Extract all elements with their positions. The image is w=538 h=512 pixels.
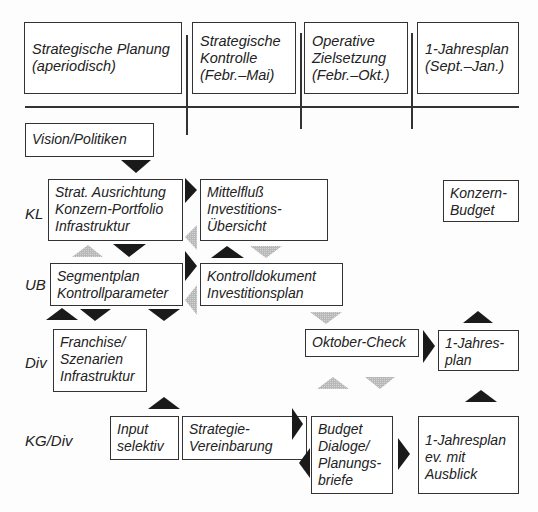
arrow-right-icon bbox=[423, 330, 435, 363]
box-text: Oktober-Check bbox=[312, 334, 406, 350]
arrow-up-icon bbox=[463, 311, 493, 323]
arrow-up-icon bbox=[46, 308, 78, 320]
row-label-div: Div bbox=[25, 354, 47, 371]
arrow-right-icon bbox=[398, 438, 410, 470]
box-vision-politiken: Vision/Politiken bbox=[25, 123, 154, 157]
header-label: 1-Jahresplan (Sept.–Jan.) bbox=[425, 41, 509, 75]
arrow-left-icon bbox=[185, 285, 197, 315]
box-strategie-vereinbarung: Strategie- Vereinbarung bbox=[182, 416, 307, 460]
header-label: Operative Zielsetzung (Febr.–Okt.) bbox=[312, 33, 390, 84]
arrow-down-icon bbox=[121, 160, 151, 173]
box-kontrolldokument: Kontrolldokument Investitionsplan bbox=[200, 263, 343, 306]
box-franchise: Franchise/ Szenarien Infrastruktur bbox=[53, 329, 147, 392]
header-strategische-planung: Strategische Planung (aperiodisch) bbox=[24, 22, 182, 94]
header-strategische-kontrolle: Strategische Kontrolle (Febr.–Mai) bbox=[192, 22, 296, 94]
box-input-selektiv: Input selektiv bbox=[110, 416, 179, 460]
box-oktober-check: Oktober-Check bbox=[305, 329, 419, 357]
box-text: Strat. Ausrichtung Konzern-Portfolio Inf… bbox=[55, 184, 166, 234]
arrow-right-icon bbox=[185, 251, 197, 281]
box-text: Segmentplan Kontrollparameter bbox=[57, 268, 168, 301]
arrow-up-icon bbox=[148, 397, 180, 409]
box-jahresplan-ausblick: 1-Jahresplan ev. mit Ausblick bbox=[418, 416, 519, 494]
box-jahresplan-small: 1-Jahres- plan bbox=[438, 330, 519, 371]
header-operative-zielsetzung: Operative Zielsetzung (Febr.–Okt.) bbox=[304, 22, 408, 94]
box-text: 1-Jahres- plan bbox=[445, 335, 504, 368]
arrow-up-icon bbox=[72, 245, 103, 257]
box-text: 1-Jahresplan ev. mit Ausblick bbox=[425, 432, 506, 482]
box-text: Strategie- Vereinbarung bbox=[189, 421, 273, 454]
header-jahresplan: 1-Jahresplan (Sept.–Jan.) bbox=[417, 22, 519, 94]
box-text: Vision/Politiken bbox=[32, 131, 127, 147]
box-text: Kontrolldokument Investitionsplan bbox=[207, 268, 316, 301]
arrow-down-icon bbox=[80, 309, 111, 321]
header-label: Strategische Kontrolle (Febr.–Mai) bbox=[200, 33, 281, 84]
box-text: Franchise/ Szenarien Infrastruktur bbox=[60, 334, 135, 384]
arrow-right-icon bbox=[185, 178, 197, 203]
arrow-down-icon bbox=[113, 244, 146, 257]
arrow-down-icon bbox=[148, 309, 180, 321]
box-konzern-budget: Konzern- Budget bbox=[443, 180, 519, 222]
box-text: Input selektiv bbox=[117, 421, 164, 454]
box-text: Mittelfluß Investitions- Übersicht bbox=[207, 184, 282, 234]
arrow-down-icon bbox=[365, 377, 395, 389]
arrow-up-icon bbox=[317, 377, 349, 389]
box-text: Konzern- Budget bbox=[450, 185, 507, 218]
box-segmentplan: Segmentplan Kontrollparameter bbox=[50, 263, 183, 306]
vertical-divider-3 bbox=[411, 33, 413, 129]
box-strat-ausrichtung: Strat. Ausrichtung Konzern-Portfolio Inf… bbox=[48, 179, 183, 241]
row-label-kl: KL bbox=[25, 205, 43, 222]
row-label-ub: UB bbox=[25, 276, 46, 293]
arrow-up-icon bbox=[465, 390, 497, 402]
box-text: Budget Dialoge/ Planungs- briefe bbox=[318, 421, 381, 488]
box-mittelfluss: Mittelfluß Investitions- Übersicht bbox=[200, 179, 328, 241]
vertical-divider-1 bbox=[186, 35, 188, 135]
arrow-down-icon bbox=[310, 312, 342, 324]
arrow-left-icon bbox=[185, 225, 197, 250]
row-label-kgdiv: KG/Div bbox=[25, 432, 73, 449]
vertical-divider-2 bbox=[300, 33, 302, 129]
header-label: Strategische Planung (aperiodisch) bbox=[32, 41, 170, 75]
box-budget-dialoge: Budget Dialoge/ Planungs- briefe bbox=[311, 416, 393, 494]
arrow-down-icon bbox=[250, 246, 282, 258]
horizontal-divider bbox=[25, 106, 519, 108]
arrow-up-icon bbox=[211, 246, 244, 258]
